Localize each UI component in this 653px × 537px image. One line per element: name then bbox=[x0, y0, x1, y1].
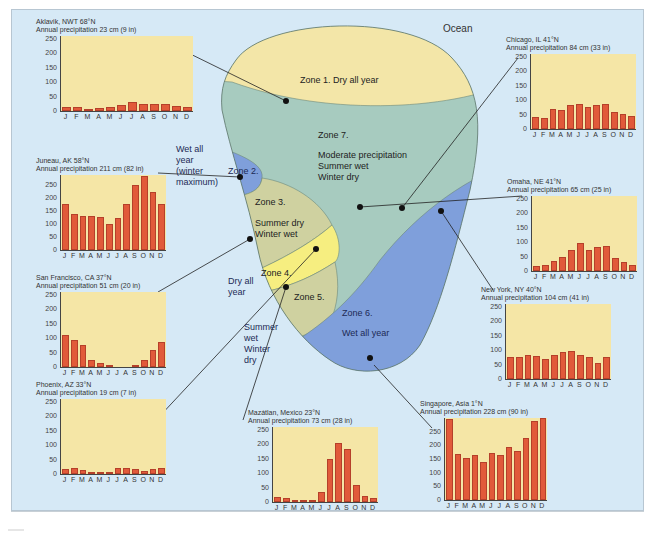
bar bbox=[533, 356, 540, 379]
x-tick-label: N bbox=[148, 369, 157, 376]
x-tick-label: J bbox=[272, 504, 281, 511]
x-tick-label: J bbox=[60, 369, 69, 376]
x-tick-label: S bbox=[601, 273, 610, 280]
zone-7-desc-line: Moderate precipitation bbox=[318, 150, 407, 161]
bar bbox=[88, 360, 95, 367]
y-tick-label: 200 bbox=[37, 194, 57, 201]
x-tick-label: N bbox=[148, 252, 157, 259]
y-tick-label: 150 bbox=[421, 455, 441, 462]
x-tick-label: D bbox=[368, 504, 377, 511]
y-tick-label: 150 bbox=[37, 64, 57, 71]
bar bbox=[344, 449, 351, 502]
bar bbox=[550, 109, 557, 129]
y-tick-label: 50 bbox=[482, 361, 502, 368]
bar bbox=[158, 468, 165, 474]
bar bbox=[283, 498, 290, 502]
x-tick-label: M bbox=[549, 273, 558, 280]
bar bbox=[489, 453, 496, 500]
bar bbox=[514, 451, 521, 500]
y-tick-label: 100 bbox=[37, 334, 57, 341]
bar bbox=[132, 365, 139, 367]
plot-area bbox=[60, 292, 166, 368]
x-tick-label: F bbox=[69, 252, 78, 259]
bar bbox=[88, 472, 95, 474]
zone-3-desc: Summer dry Winter wet bbox=[255, 218, 304, 240]
bar bbox=[446, 419, 453, 500]
bar bbox=[172, 106, 181, 111]
bar bbox=[141, 360, 148, 367]
side-label-line: dry bbox=[244, 355, 278, 366]
y-tick-label: 0 bbox=[482, 375, 502, 382]
bar bbox=[472, 455, 479, 500]
x-tick-label: O bbox=[139, 252, 148, 259]
x-tick-label: S bbox=[130, 252, 139, 259]
bar bbox=[139, 104, 148, 111]
x-tick-label: J bbox=[113, 476, 122, 483]
x-tick-label: J bbox=[583, 131, 592, 138]
y-tick-label: 250 bbox=[37, 398, 57, 405]
side-label-line: (winter bbox=[176, 166, 218, 177]
x-tick-label: D bbox=[627, 273, 636, 280]
bar bbox=[370, 498, 377, 502]
y-tick-label: 50 bbox=[37, 456, 57, 463]
x-tick-label: J bbox=[60, 252, 69, 259]
bar bbox=[541, 118, 548, 129]
x-tick-label: A bbox=[591, 131, 600, 138]
side-label-line: Wet all bbox=[176, 144, 218, 155]
y-tick-label: 150 bbox=[507, 82, 527, 89]
bar bbox=[463, 458, 470, 500]
plot-area bbox=[444, 418, 547, 501]
bar bbox=[117, 105, 126, 111]
bar bbox=[620, 114, 627, 129]
bar bbox=[576, 104, 583, 129]
x-tick-label: J bbox=[558, 381, 567, 388]
x-tick-label: J bbox=[575, 273, 584, 280]
x-tick-label: J bbox=[549, 381, 558, 388]
x-tick-label: D bbox=[181, 113, 192, 120]
x-tick-label: O bbox=[139, 369, 148, 376]
y-tick-label: 150 bbox=[249, 455, 269, 462]
y-tick-label: 200 bbox=[482, 317, 502, 324]
x-tick-label: N bbox=[170, 113, 181, 120]
bar bbox=[577, 243, 584, 271]
x-tick-label: A bbox=[504, 502, 513, 509]
bar bbox=[567, 105, 574, 129]
bar bbox=[497, 455, 504, 500]
bar bbox=[123, 204, 130, 250]
bar bbox=[80, 216, 87, 250]
bar bbox=[506, 447, 513, 500]
bar bbox=[97, 217, 104, 250]
plot-area bbox=[530, 54, 636, 130]
side-label-line: Summer bbox=[244, 322, 278, 333]
x-tick-label: A bbox=[86, 476, 95, 483]
x-tick-label: A bbox=[93, 113, 104, 120]
bar bbox=[132, 185, 139, 250]
bar bbox=[80, 345, 87, 367]
y-tick-label: 100 bbox=[37, 441, 57, 448]
y-tick-label: 50 bbox=[507, 111, 527, 118]
side-label-line: wet bbox=[244, 333, 278, 344]
y-tick-label: 250 bbox=[249, 426, 269, 433]
bar bbox=[123, 468, 130, 474]
zone-6-desc: Wet all year bbox=[342, 328, 389, 339]
bar bbox=[353, 485, 360, 502]
bar bbox=[558, 110, 565, 129]
plot-area bbox=[272, 427, 378, 503]
x-tick-label: N bbox=[360, 504, 369, 511]
y-tick-label: 100 bbox=[482, 346, 502, 353]
x-tick-label: J bbox=[505, 381, 514, 388]
x-tick-label: N bbox=[529, 502, 538, 509]
chart-subtitle: Annual precipitation 84 cm (33 in) bbox=[506, 44, 610, 53]
x-tick-label: M bbox=[78, 369, 87, 376]
x-tick-label: D bbox=[601, 381, 610, 388]
bar bbox=[84, 109, 93, 111]
x-tick-label: A bbox=[592, 273, 601, 280]
x-tick-label: A bbox=[470, 502, 479, 509]
bar bbox=[525, 355, 532, 379]
x-tick-label: A bbox=[121, 252, 130, 259]
zone-3-desc-line: Summer dry bbox=[255, 218, 304, 229]
x-tick-label: M bbox=[95, 252, 104, 259]
bar bbox=[551, 355, 558, 379]
x-tick-label: J bbox=[487, 502, 496, 509]
x-tick-label: M bbox=[82, 113, 93, 120]
